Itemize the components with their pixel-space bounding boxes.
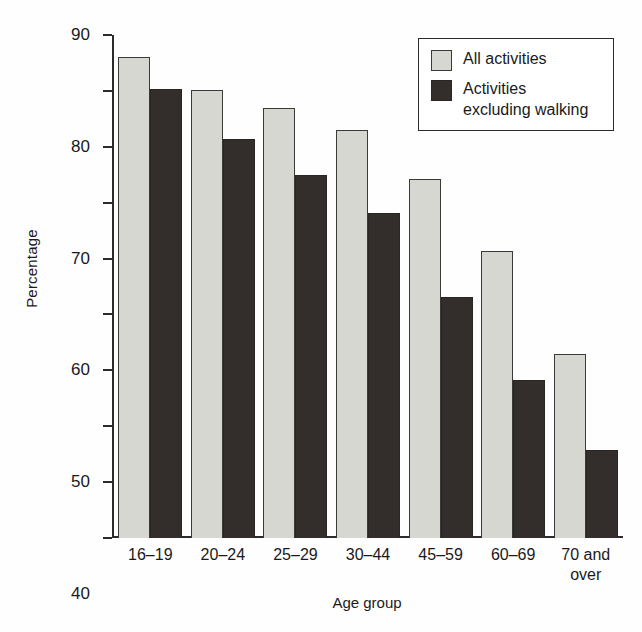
y-axis-tick-label: 60 [71, 361, 90, 378]
x-axis-tick-label: 60–69 [477, 545, 550, 585]
y-axis-tick-label: 70 [71, 249, 90, 266]
y-axis-tick-label: 50 [71, 473, 90, 490]
y-axis-tick: 20 [103, 425, 112, 427]
y-axis-tick: 0 [103, 537, 112, 539]
bar [336, 130, 368, 538]
y-axis-tick: 60 [103, 202, 112, 204]
bar [150, 89, 182, 538]
y-axis-label-text: Percentage [23, 229, 40, 308]
legend-swatch-dark [431, 80, 452, 101]
bar [441, 297, 473, 538]
bar-group [332, 35, 405, 538]
bar [263, 108, 295, 538]
x-axis-tick-label: 25–29 [259, 545, 332, 585]
bar-chart-figure: Percentage 9080706050403020100 16–1920–2… [0, 0, 642, 632]
x-axis-tick-label: 45–59 [404, 545, 477, 585]
bar [586, 450, 618, 538]
bar [481, 251, 513, 538]
bar [409, 179, 441, 538]
legend-item-all-activities: All activities [431, 48, 603, 71]
y-axis-tick: 90 [103, 34, 112, 36]
y-axis-label: Percentage [14, 0, 48, 537]
x-axis-tick-labels: 16–1920–2425–2930–4445–5960–6970 and ove… [114, 545, 622, 585]
y-axis-tick: 30 [103, 369, 112, 371]
x-axis-label: Age group [112, 594, 622, 611]
bar-group [259, 35, 332, 538]
legend-label-excluding-walking: Activities excluding walking [463, 78, 588, 120]
legend-label-all-activities: All activities [463, 48, 547, 69]
bar-group [187, 35, 260, 538]
x-axis-tick-label: 30–44 [332, 545, 405, 585]
y-axis-tick: 50 [103, 258, 112, 260]
bar-group [114, 35, 187, 538]
y-axis-tick: 10 [103, 481, 112, 483]
y-axis-tick-label: 90 [71, 26, 90, 43]
y-axis-tick-label: 40 [71, 584, 90, 601]
bar [118, 57, 150, 538]
y-axis-tick: 70 [103, 146, 112, 148]
x-axis-tick-label: 70 and over [549, 545, 622, 585]
y-axis-tick: 40 [103, 313, 112, 315]
bar [554, 354, 586, 538]
x-axis-tick-label: 20–24 [187, 545, 260, 585]
bar [368, 213, 400, 538]
bar [513, 380, 545, 538]
bar [295, 175, 327, 538]
bar [191, 90, 223, 538]
y-axis-tick: 80 [103, 90, 112, 92]
chart-legend: All activities Activities excluding walk… [418, 38, 614, 131]
bar [223, 139, 255, 538]
x-axis-tick-label: 16–19 [114, 545, 187, 585]
y-axis-tick-label: 80 [71, 137, 90, 154]
legend-swatch-light [431, 50, 452, 71]
legend-item-excluding-walking: Activities excluding walking [431, 78, 603, 120]
